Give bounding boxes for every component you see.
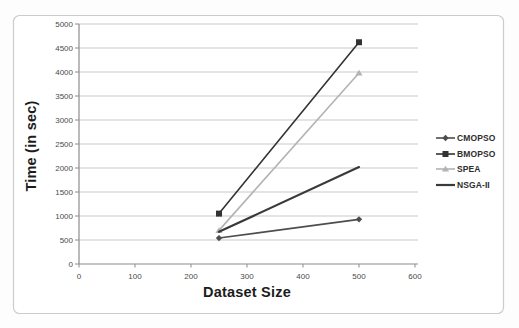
y-axis-title: Time (in sec) bbox=[23, 101, 39, 192]
svg-text:0: 0 bbox=[77, 272, 82, 281]
svg-text:1000: 1000 bbox=[55, 212, 73, 221]
legend-item-cmopso: CMOPSO bbox=[436, 133, 495, 143]
figure-page: 0500100015002000250030003500400045005000… bbox=[0, 0, 519, 328]
svg-text:5000: 5000 bbox=[55, 20, 73, 29]
legend-label: SPEA bbox=[457, 164, 481, 174]
svg-text:2500: 2500 bbox=[55, 140, 73, 149]
x-axis-title: Dataset Size bbox=[203, 284, 291, 300]
legend-item-bmopso: BMOPSO bbox=[436, 149, 495, 159]
svg-text:200: 200 bbox=[184, 272, 198, 281]
svg-text:500: 500 bbox=[60, 236, 74, 245]
svg-text:3500: 3500 bbox=[55, 92, 73, 101]
chart-legend: CMOPSO BMOPSO SPEA NSGA-II bbox=[436, 133, 495, 190]
svg-text:400: 400 bbox=[296, 272, 310, 281]
legend-label: CMOPSO bbox=[457, 133, 495, 143]
bmopso-line-marker-icon bbox=[436, 149, 455, 159]
svg-text:500: 500 bbox=[352, 272, 366, 281]
legend-label: NSGA-II bbox=[457, 180, 490, 190]
svg-text:600: 600 bbox=[408, 272, 422, 281]
svg-text:300: 300 bbox=[240, 272, 254, 281]
svg-text:4000: 4000 bbox=[55, 68, 73, 77]
legend-label: BMOPSO bbox=[457, 149, 495, 159]
legend-item-spea: SPEA bbox=[436, 164, 495, 174]
svg-text:100: 100 bbox=[128, 272, 142, 281]
svg-text:3000: 3000 bbox=[55, 116, 73, 125]
svg-text:1500: 1500 bbox=[55, 188, 73, 197]
nsga2-line-icon bbox=[436, 180, 455, 190]
svg-text:0: 0 bbox=[69, 260, 74, 269]
legend-item-nsga2: NSGA-II bbox=[436, 180, 495, 190]
spea-line-marker-icon bbox=[436, 164, 455, 174]
cmopso-line-marker-icon bbox=[436, 133, 455, 143]
svg-text:4500: 4500 bbox=[55, 44, 73, 53]
svg-text:2000: 2000 bbox=[55, 164, 73, 173]
